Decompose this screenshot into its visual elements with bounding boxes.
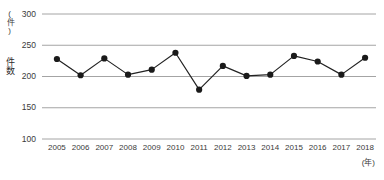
data-point-marker: [315, 58, 321, 64]
data-point-marker: [243, 73, 249, 79]
x-axis-tick-label: 2016: [305, 144, 331, 152]
x-axis-tick-label: 2011: [186, 144, 212, 152]
data-point-marker: [78, 72, 84, 78]
data-point-marker: [125, 72, 131, 78]
plot-area: [0, 0, 384, 180]
x-axis-tick-label: 2005: [44, 144, 70, 152]
data-point-marker: [362, 55, 368, 61]
y-axis-tick-label: 300: [12, 10, 36, 19]
data-point-marker: [54, 56, 60, 62]
data-point-marker: [338, 72, 344, 78]
x-axis-tick-label: 2007: [91, 144, 117, 152]
data-point-marker: [101, 55, 107, 61]
x-axis-tick-label: 2009: [139, 144, 165, 152]
data-point-marker: [220, 63, 226, 69]
x-axis-tick-label: 2010: [162, 144, 188, 152]
data-point-marker: [267, 72, 273, 78]
data-point-markers: [54, 50, 368, 93]
x-axis-tick-label: 2013: [234, 144, 260, 152]
y-axis-tick-label: 150: [12, 103, 36, 112]
y-axis-tick-label: 250: [12, 41, 36, 50]
x-axis-tick-label: 2018: [352, 144, 378, 152]
x-axis-tick-label: 2014: [257, 144, 283, 152]
x-axis-tick-label: 2008: [115, 144, 141, 152]
data-point-marker: [196, 87, 202, 93]
x-axis-tick-label: 2015: [281, 144, 307, 152]
line-chart: (件) 件数 (年) 100150200250300 2005200620072…: [0, 0, 384, 180]
x-axis-tick-label: 2006: [68, 144, 94, 152]
data-point-marker: [291, 53, 297, 59]
gridlines: [42, 14, 376, 139]
data-point-marker: [149, 67, 155, 73]
x-axis-tick-label: 2012: [210, 144, 236, 152]
y-axis-tick-label: 200: [12, 72, 36, 81]
y-axis-tick-label: 100: [12, 135, 36, 144]
x-axis-tick-label: 2017: [328, 144, 354, 152]
data-point-marker: [172, 50, 178, 56]
